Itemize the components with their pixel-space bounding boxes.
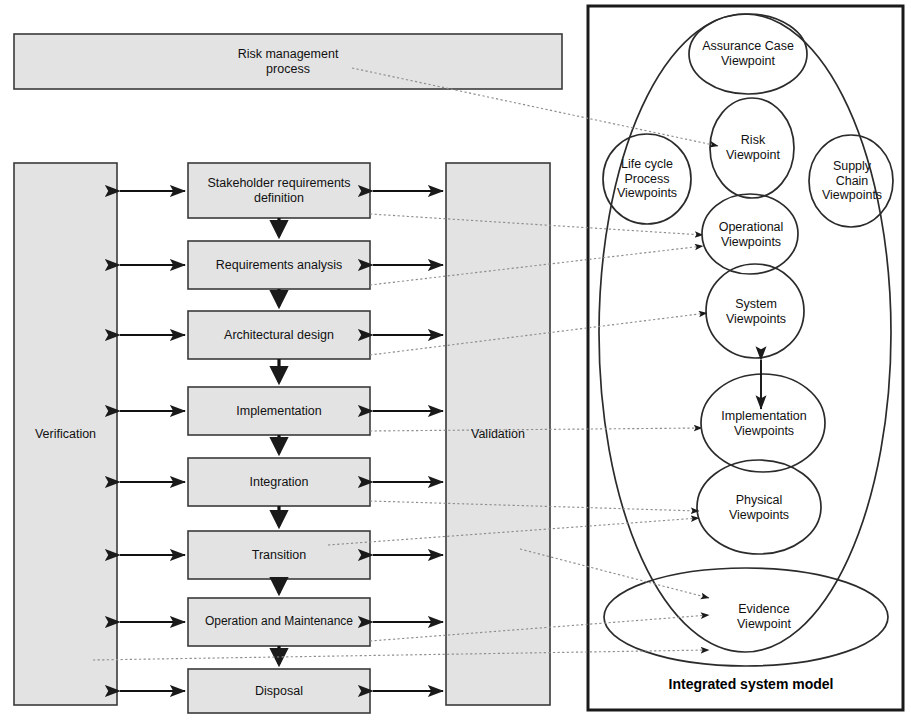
- process-box-transition: [188, 531, 370, 579]
- verification-column-box: [14, 163, 117, 705]
- viewpoint-label-implementation-viewpoints: Implementation Viewpoints: [704, 401, 824, 447]
- validation-column-box: [446, 163, 550, 705]
- viewpoint-label-system-viewpoints: System Viewpoints: [712, 289, 800, 335]
- integrated-system-model-caption: Integrated system model: [656, 676, 846, 692]
- viewpoint-label-risk-viewpoint: Risk Viewpoint: [714, 124, 792, 172]
- viewpoint-label-physical-viewpoints: Physical Viewpoints: [709, 485, 809, 531]
- diagram-canvas: Risk management process Verification Val…: [0, 0, 911, 720]
- viewpoint-label-supply-chain-viewpoints: Supply Chain Viewpoints: [812, 154, 892, 208]
- process-box-stakeholder-requirements-definition: [188, 163, 370, 218]
- viewpoint-label-assurance-case-viewpoint: Assurance Case Viewpoint: [689, 30, 807, 78]
- verification-link-arrows: [120, 191, 185, 691]
- process-box-operation-and-maintenance: [188, 598, 370, 646]
- process-box-implementation: [188, 387, 370, 435]
- process-box-requirements-analysis: [188, 241, 370, 289]
- viewpoint-label-evidence-viewpoint: Evidence Viewpoint: [716, 594, 812, 640]
- viewpoint-label-life-cycle-process-viewpoints: Life cycle Process Viewpoints: [605, 152, 689, 206]
- process-box-architectural-design: [188, 311, 370, 359]
- validation-link-arrows: [373, 191, 443, 691]
- viewpoint-label-operational-viewpoints: Operational Viewpoints: [706, 212, 796, 258]
- process-box-integration: [188, 458, 370, 506]
- risk-management-process-box: [14, 34, 562, 89]
- connector-disposal-to-evidence: [93, 650, 709, 660]
- process-box-disposal: [188, 669, 370, 713]
